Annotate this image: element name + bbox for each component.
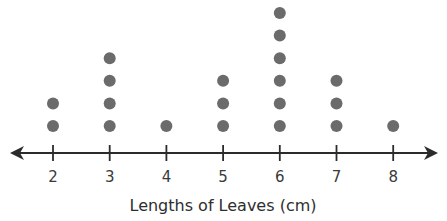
number-line: 2345678 <box>10 145 438 186</box>
data-dot <box>160 120 172 132</box>
dot-plot: 2345678 Lengths of Leaves (cm) <box>0 0 447 221</box>
data-dot <box>217 120 229 132</box>
tick-label: 7 <box>332 168 342 186</box>
tick-label: 5 <box>218 168 228 186</box>
data-dot <box>274 52 286 64</box>
data-dot <box>217 97 229 109</box>
dot-marks <box>47 7 399 132</box>
data-dot <box>331 75 343 87</box>
x-axis-title: Lengths of Leaves (cm) <box>130 196 317 215</box>
data-dot <box>104 97 116 109</box>
data-dot <box>104 52 116 64</box>
data-dot <box>217 75 229 87</box>
data-dot <box>331 120 343 132</box>
data-dot <box>274 30 286 42</box>
tick-label: 8 <box>388 168 398 186</box>
data-dot <box>274 120 286 132</box>
data-dot <box>104 75 116 87</box>
axis-ticks: 2345678 <box>48 145 398 186</box>
tick-label: 4 <box>162 168 172 186</box>
data-dot <box>274 75 286 87</box>
data-dot <box>274 97 286 109</box>
data-dot <box>274 7 286 19</box>
data-dot <box>47 97 59 109</box>
data-dot <box>104 120 116 132</box>
tick-label: 3 <box>105 168 115 186</box>
data-dot <box>387 120 399 132</box>
tick-label: 6 <box>275 168 285 186</box>
data-dot <box>47 120 59 132</box>
data-dot <box>331 97 343 109</box>
tick-label: 2 <box>48 168 58 186</box>
